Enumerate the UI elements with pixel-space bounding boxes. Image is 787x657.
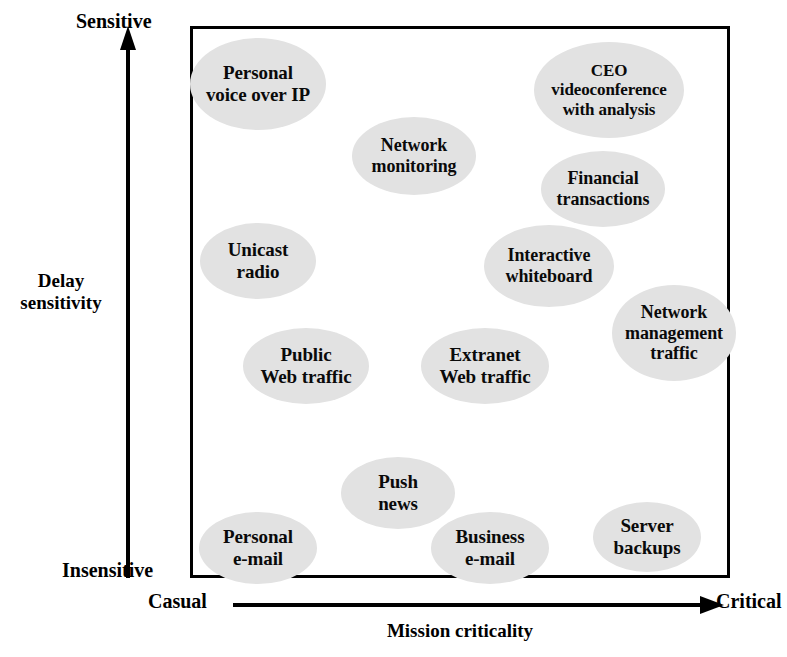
bubble-network-monitoring: Networkmonitoring [352,117,476,195]
bubble-unicast-radio: Unicastradio [200,223,316,299]
bubble-personal-voice-over-ip: Personalvoice over IP [190,38,326,130]
y-axis-bottom-label: Insensitive [62,559,153,582]
y-axis-title-line1: Delay [0,270,122,292]
bubble-network-management-traffic: Networkmanagementtraffic [612,285,736,381]
bubble-label: Personalvoice over IP [202,62,314,105]
y-axis-top-label: Sensitive [76,10,152,33]
y-axis-title-line2: sensitivity [0,292,122,314]
x-axis-left-label: Casual [148,590,207,613]
positioning-map-figure: Sensitive Insensitive Casual Critical De… [0,0,787,657]
plot-area: Personalvoice over IPCEOvideoconferencew… [190,26,730,578]
bubble-interactive-whiteboard: Interactivewhiteboard [484,225,614,307]
bubble-business-e-mail: Businesse-mail [431,512,549,584]
bubble-label: ExtranetWeb traffic [435,344,534,387]
bubble-personal-e-mail: Personale-mail [199,512,317,584]
bubble-server-backups: Serverbackups [593,502,701,572]
bubble-label: Unicastradio [224,239,293,282]
bubble-public-web-traffic: PublicWeb traffic [243,328,369,404]
bubble-label: Networkmonitoring [367,135,460,176]
bubble-push-news: Pushnews [341,457,455,529]
bubble-label: Networkmanagementtraffic [621,302,727,364]
bubble-label: CEOvideoconferencewith analysis [547,61,670,119]
bubble-financial-transactions: Financialtransactions [541,151,665,227]
bubble-label: Interactivewhiteboard [501,245,596,286]
y-axis-title: Delay sensitivity [0,270,122,315]
bubble-label: Pushnews [374,471,422,514]
bubble-label: PublicWeb traffic [256,344,355,387]
x-axis-right-label: Critical [716,590,782,613]
bubble-ceo-videoconference-with-analysis: CEOvideoconferencewith analysis [534,42,684,138]
bubble-label: Financialtransactions [553,168,654,209]
bubble-label: Personale-mail [219,526,297,569]
x-axis-line [233,603,705,607]
x-axis-title: Mission criticality [190,620,730,642]
bubble-label: Serverbackups [610,515,685,558]
y-axis-line [126,47,130,578]
bubble-label: Businesse-mail [452,526,529,569]
bubble-extranet-web-traffic: ExtranetWeb traffic [421,328,549,404]
